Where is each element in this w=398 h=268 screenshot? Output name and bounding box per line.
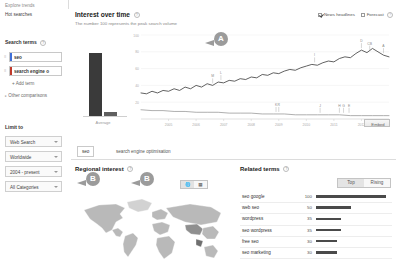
search-term-input[interactable]: search engine o [9,66,62,76]
checkbox-icon [361,13,365,17]
chevron-down-icon [54,171,58,173]
filter-select-category[interactable]: All Categories [5,181,62,192]
related-term-bar [316,229,341,231]
related-term-bar [316,206,351,208]
related-term-row[interactable]: seo marketing30 [240,248,392,259]
news-headlines-checkbox[interactable]: News headlines [318,12,355,17]
x-axis-tick: 2009 [275,123,283,127]
filter-select-time-range[interactable]: 2004 - present [5,166,62,177]
tab-seo[interactable]: seo [77,146,94,157]
help-icon[interactable]: ? [283,166,289,172]
other-comparisons-label: Other comparisons [8,93,47,98]
news-marker[interactable]: E [348,104,351,108]
x-axis-tick: 2010 [303,123,311,127]
related-terms-card: Related terms ? Top Rising seo google100… [236,163,396,268]
drag-handle-icon[interactable]: ≡ [4,69,7,72]
add-term-button[interactable]: + Add term [12,81,34,86]
help-icon[interactable]: ? [134,12,140,18]
other-comparisons-toggle[interactable]: ▸Other comparisons [5,93,47,98]
related-term-bar [316,195,386,197]
series-color-swatch [10,53,12,61]
sidebar-item-explore-trends[interactable]: Explore trends [5,3,35,8]
filter-label: All Categories [10,185,39,190]
globe-icon[interactable]: 🌐 [181,181,195,188]
related-term-name: free seo [242,239,259,244]
interest-over-time-title: Interest over time ? [75,11,140,18]
related-term-bar [316,218,341,220]
average-bar-chart: Average [79,31,127,135]
related-term-name: wordpress [242,216,263,221]
news-marker[interactable]: I [314,53,315,57]
related-terms-top-button[interactable]: Top [338,179,365,187]
drag-handle-icon[interactable]: ≡ [4,55,7,58]
bar-chart-icon[interactable]: ▩ [194,181,207,188]
news-marker[interactable]: H [338,104,341,108]
checkbox-icon [318,13,322,17]
related-term-name: seo wordpress [242,228,272,233]
search-term-input[interactable]: seo [9,52,62,62]
chevron-down-icon [54,156,58,158]
related-terms-rising-button[interactable]: Rising [364,179,390,187]
related-term-bar [316,240,337,242]
news-headlines-label: News headlines [324,12,355,17]
news-marker[interactable]: L [220,71,222,75]
related-terms-title: Related terms ? [240,166,289,172]
search-term-row[interactable]: ≡ seo [4,52,62,63]
related-term-row[interactable]: web seo50 [240,203,392,214]
y-axis-tick: 100 [133,34,139,38]
y-axis-tick: 60 [135,67,139,71]
related-term-row[interactable]: wordpress35 [240,214,392,225]
help-icon[interactable]: ? [127,166,133,172]
news-marker[interactable]: G [342,104,345,108]
news-marker[interactable]: J [319,104,321,108]
callout-tail [77,180,86,186]
row-separator [240,258,392,259]
news-marker[interactable]: A [382,44,385,48]
news-marker[interactable]: CB [367,42,372,46]
regional-interest-title-text: Regional interest [75,166,124,172]
chevron-down-icon [54,141,58,143]
search-term-value: seo [14,55,61,60]
search-terms-heading: Search terms ? [5,39,46,46]
interest-over-time-title-text: Interest over time [75,11,130,18]
related-term-row[interactable]: seo google100 [240,192,392,203]
average-baseline [83,116,127,117]
search-term-value: search engine o [14,69,61,74]
filter-select-search-type[interactable]: Web Search [5,136,62,147]
world-map[interactable] [77,193,227,265]
regional-view-toggle[interactable]: 🌐 ▩ [180,180,208,189]
sidebar-item-hot-searches[interactable]: Hot searches [5,12,32,17]
main-content: Interest over time ? The number 100 repr… [68,9,398,268]
callout-tail [205,40,214,46]
help-icon[interactable]: ? [387,12,393,18]
world-map-svg [77,193,227,265]
interest-over-time-card: Interest over time ? The number 100 repr… [71,9,396,141]
x-axis-tick: 2006 [192,123,200,127]
related-term-bar [316,251,337,253]
filter-label: 2004 - present [10,170,40,175]
related-terms-toggle[interactable]: Top Rising [337,178,391,188]
related-term-name: web seo [242,205,259,210]
related-terms-title-text: Related terms [240,166,280,172]
embed-button[interactable]: Embed [364,119,390,127]
y-axis-tick: 80 [135,50,139,54]
forecast-checkbox[interactable]: Forecast ? [361,12,393,18]
search-term-row[interactable]: ≡ search engine o [4,66,62,77]
news-marker[interactable]: D [360,39,363,43]
filter-select-location[interactable]: Worldwide [5,151,62,162]
series-color-swatch [10,67,12,75]
news-marker[interactable]: M [211,74,214,78]
y-axis-tick: 20 [135,101,139,105]
related-term-row[interactable]: seo wordpress35 [240,226,392,237]
related-term-row[interactable]: free seo30 [240,237,392,248]
help-icon[interactable]: ? [40,40,46,46]
term-tabs: seo search engine optimisation [71,143,396,160]
news-marker[interactable]: R [278,103,281,107]
y-axis-tick: 40 [135,84,139,88]
tab-search-engine-optimisation[interactable]: search engine optimisation [111,146,176,157]
trend-line-search-engine-optimisation [141,110,389,116]
x-axis-tick: 2011 [330,123,337,127]
callout-tail [131,180,140,186]
related-term-value: 35 [302,228,312,233]
callout-bubble-b2: B [140,172,154,186]
